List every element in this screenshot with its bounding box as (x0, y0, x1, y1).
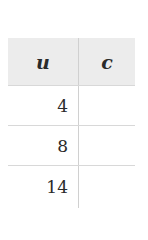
cell-u: 8 (8, 126, 79, 166)
header-c: c (79, 38, 136, 86)
table-row: 4 (8, 86, 135, 126)
cell-u: 4 (8, 86, 79, 126)
cell-u: 14 (8, 166, 79, 209)
cell-c[interactable] (79, 86, 136, 126)
table-row: 14 (8, 166, 135, 209)
table-row: 8 (8, 126, 135, 166)
table-header-row: u c (8, 38, 135, 86)
value-table: u c 4 8 14 (8, 38, 135, 208)
cell-c[interactable] (79, 166, 136, 209)
header-u: u (8, 38, 79, 86)
cell-c[interactable] (79, 126, 136, 166)
